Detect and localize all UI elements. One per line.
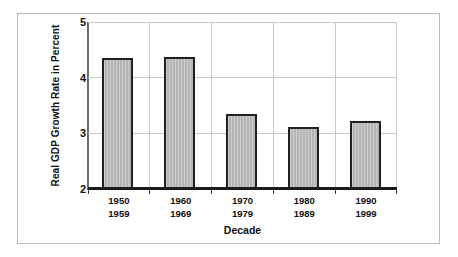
y-tick-label-4: 4 [70, 72, 86, 83]
category-separator-2 [211, 22, 212, 189]
x-label-1980-1989-line2: 1989 [273, 207, 335, 220]
bar-1950-1959[interactable] [102, 58, 133, 189]
plot-area [88, 22, 397, 189]
figure-root: Real GDP Growth Rate in Percent 5 4 3 2 [0, 0, 458, 257]
value-axis-line [87, 22, 89, 189]
gridline-4 [88, 77, 397, 78]
category-separator-4 [335, 22, 336, 189]
y-axis-title: Real GDP Growth Rate in Percent [47, 22, 65, 189]
x-label-1980-1989: 1980 1989 [273, 194, 335, 224]
x-label-1950-1959-line2: 1959 [88, 207, 150, 220]
category-separator-5 [396, 22, 397, 189]
y-axis-tick-labels: 5 4 3 2 [68, 22, 86, 189]
x-label-1950-1959: 1950 1959 [88, 194, 150, 224]
y-tick-label-3: 3 [70, 128, 86, 139]
x-label-1970-1979: 1970 1979 [212, 194, 274, 224]
bar-1960-1969[interactable] [164, 57, 195, 189]
x-label-1970-1979-line1: 1970 [212, 194, 274, 207]
category-axis-baseline [88, 187, 397, 190]
x-label-1960-1969-line2: 1969 [150, 207, 212, 220]
x-label-1990-1999: 1990 1999 [335, 194, 397, 224]
bar-1970-1979[interactable] [226, 114, 257, 189]
bar-1990-1999[interactable] [350, 121, 381, 189]
y-tick-label-5: 5 [70, 17, 86, 28]
category-separator-3 [273, 22, 274, 189]
x-label-1960-1969-line1: 1960 [150, 194, 212, 207]
x-axis-tick-labels: 1950 1959 1960 1969 1970 1979 1980 1989 … [88, 194, 397, 224]
x-label-1980-1989-line1: 1980 [273, 194, 335, 207]
category-separator-1 [149, 22, 150, 189]
x-label-1960-1969: 1960 1969 [150, 194, 212, 224]
x-axis-title: Decade [88, 224, 397, 236]
x-label-1990-1999-line2: 1999 [335, 207, 397, 220]
x-label-1970-1979-line2: 1979 [212, 207, 274, 220]
gridline-5 [88, 22, 397, 23]
bar-1980-1989[interactable] [288, 127, 319, 189]
x-label-1950-1959-line1: 1950 [88, 194, 150, 207]
x-label-1990-1999-line1: 1990 [335, 194, 397, 207]
y-tick-label-2: 2 [70, 184, 86, 195]
